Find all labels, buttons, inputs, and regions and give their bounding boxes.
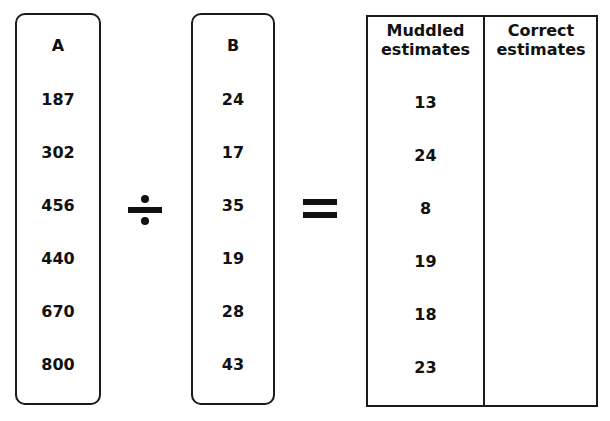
column-divider — [483, 17, 485, 405]
column-a-value: 187 — [17, 90, 99, 110]
equals-sign-icon — [303, 199, 337, 219]
column-a-value: 670 — [17, 302, 99, 322]
column-a-box: A 187 302 456 440 670 800 — [15, 13, 101, 405]
column-a-header: A — [17, 36, 99, 56]
muddled-estimate-cell: 23 — [368, 358, 483, 378]
column-b-header: B — [193, 36, 273, 56]
column-b-value: 19 — [193, 249, 273, 269]
muddled-estimates-header: Muddled estimates — [368, 21, 483, 59]
column-b-value: 43 — [193, 355, 273, 375]
column-a-value: 456 — [17, 196, 99, 216]
muddled-estimate-cell: 8 — [368, 199, 483, 219]
column-b-value: 17 — [193, 143, 273, 163]
column-a-value: 440 — [17, 249, 99, 269]
muddled-estimate-cell: 18 — [368, 305, 483, 325]
division-sign-icon — [128, 193, 162, 227]
column-b-value: 28 — [193, 302, 273, 322]
correct-estimates-header: Correct estimates — [485, 21, 597, 59]
column-a-value: 800 — [17, 355, 99, 375]
column-b-box: B 24 17 35 19 28 43 — [191, 13, 275, 405]
muddled-estimate-cell: 13 — [368, 93, 483, 113]
muddled-estimate-cell: 19 — [368, 252, 483, 272]
column-a-value: 302 — [17, 143, 99, 163]
column-b-value: 24 — [193, 90, 273, 110]
column-b-value: 35 — [193, 196, 273, 216]
muddled-estimate-cell: 24 — [368, 146, 483, 166]
results-table: Muddled estimates Correct estimates 13 2… — [366, 15, 598, 407]
